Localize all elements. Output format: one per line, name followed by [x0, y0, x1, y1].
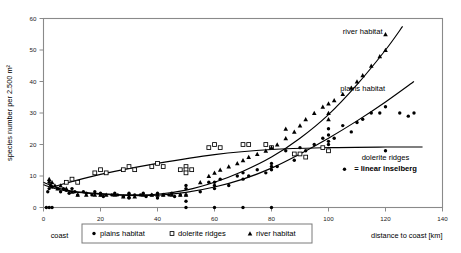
data-point-dolerite-ridges: [298, 152, 302, 156]
y-axis-tick-label: 0: [33, 204, 37, 211]
data-point-plains-habitat: [241, 206, 244, 209]
species-distance-scatter-plot: 0204060801001201400102030405060species n…: [0, 0, 461, 253]
data-point-river-habitat: [332, 98, 337, 102]
data-point-river-habitat: [321, 104, 326, 108]
legend-marker-dolerite-icon: [170, 232, 174, 236]
data-point-plains-habitat: [313, 143, 316, 146]
x-axis-tick-label: 20: [97, 215, 104, 222]
annotation-linear-inselberg: = linear inselberg: [354, 164, 417, 173]
data-point-plains-habitat: [213, 184, 216, 187]
data-point-plains-habitat: [298, 146, 301, 149]
data-point-plains-habitat: [256, 168, 259, 171]
data-point-river-habitat: [235, 161, 240, 165]
data-point-river-habitat: [326, 101, 331, 105]
data-point-plains-habitat: [184, 200, 187, 203]
data-point-plains-habitat: [384, 105, 387, 108]
data-point-plains-habitat: [213, 187, 216, 190]
data-point-river-habitat: [292, 130, 297, 134]
data-point-plains-habitat: [361, 118, 364, 121]
data-point-plains-habitat: [341, 124, 344, 127]
data-point-plains-habitat: [241, 177, 244, 180]
data-point-river-habitat: [241, 158, 246, 162]
data-point-plains-habitat: [327, 143, 330, 146]
data-point-river-habitat: [207, 174, 212, 178]
data-point-plains-habitat: [370, 111, 373, 114]
data-point-river-habitat: [326, 117, 331, 121]
data-point-dolerite-ridges: [150, 165, 154, 169]
data-point-plains-habitat: [236, 174, 239, 177]
data-point-plains-habitat: [378, 111, 381, 114]
data-point-plains-habitat: [46, 190, 49, 193]
data-point-plains-habitat: [384, 149, 387, 152]
data-point-dolerite-ridges: [76, 180, 80, 184]
data-point-plains-habitat: [213, 181, 216, 184]
data-point-dolerite-ridges: [218, 146, 222, 150]
data-point-dolerite-ridges: [327, 149, 331, 153]
data-point-dolerite-ridges: [156, 162, 160, 166]
data-point-river-habitat: [198, 180, 203, 184]
x-axis-tick-label: 40: [154, 215, 161, 222]
data-point-dolerite-ridges: [64, 180, 68, 184]
data-point-plains-habitat: [412, 111, 415, 114]
data-point-dolerite-ridges: [304, 155, 308, 159]
data-point-plains-habitat: [333, 137, 336, 140]
data-point-dolerite-ridges: [247, 143, 251, 147]
x-axis-title: distance to coast [km]: [371, 231, 442, 240]
data-point-river-habitat: [275, 142, 280, 146]
legend-label-plains-habitat: plains habitat: [100, 229, 146, 238]
data-point-plains-habitat: [270, 165, 273, 168]
data-point-plains-habitat: [276, 165, 279, 168]
data-point-plains-habitat: [241, 171, 244, 174]
data-point-plains-habitat: [219, 177, 222, 180]
data-point-plains-habitat: [207, 181, 210, 184]
data-point-plains-habitat: [199, 190, 202, 193]
data-point-dolerite-ridges: [161, 165, 165, 169]
x-axis-tick-label: 0: [42, 215, 46, 222]
y-axis-tick-label: 30: [30, 109, 37, 116]
data-point-dolerite-ridges: [127, 165, 131, 169]
data-point-plains-habitat: [48, 187, 51, 190]
data-point-plains-habitat: [270, 206, 273, 209]
trendline-plains-habitat: [44, 82, 415, 196]
data-point-plains-habitat: [327, 133, 330, 136]
x-axis-tick-label: 80: [268, 215, 275, 222]
data-point-river-habitat: [218, 167, 223, 171]
legend-marker-plains-icon: [92, 232, 95, 235]
y-axis-tick-label: 50: [30, 46, 37, 53]
data-point-dolerite-ridges: [93, 171, 97, 175]
y-axis-tick-label: 60: [30, 15, 37, 22]
data-point-plains-habitat: [227, 184, 230, 187]
data-point-plains-habitat: [407, 114, 410, 117]
data-point-plains-habitat: [321, 137, 324, 140]
data-point-plains-habitat: [184, 184, 187, 187]
x-axis-tick-label: 60: [211, 215, 218, 222]
data-point-dolerite-ridges: [241, 143, 245, 147]
origin-coast-label: coast: [51, 231, 69, 240]
trendline-river-habitat: [44, 26, 403, 195]
data-point-dolerite-ridges: [178, 168, 182, 172]
data-point-plains-habitat: [50, 206, 53, 209]
data-point-dolerite-ridges: [184, 171, 188, 175]
data-point-plains-habitat: [82, 190, 85, 193]
y-axis-tick-label: 40: [30, 78, 37, 85]
data-point-river-habitat: [360, 73, 365, 77]
data-point-plains-habitat: [398, 111, 401, 114]
data-point-river-habitat: [255, 152, 260, 156]
annotation-dolerite-ridges: dolerite ridges: [362, 153, 410, 162]
data-point-plains-habitat: [270, 168, 273, 171]
data-point-dolerite-ridges: [292, 152, 296, 156]
y-axis-title: species number per 2.500 m²: [5, 64, 14, 161]
data-point-dolerite-ridges: [121, 168, 125, 172]
legend-label-dolerite-ridges: dolerite ridges: [178, 229, 226, 238]
data-point-dolerite-ridges: [213, 143, 217, 147]
data-point-dolerite-ridges: [321, 146, 325, 150]
data-point-plains-habitat: [213, 206, 216, 209]
data-point-river-habitat: [298, 123, 303, 127]
chart-figure: 0204060801001201400102030405060species n…: [0, 0, 461, 253]
data-point-plains-habitat: [184, 187, 187, 190]
data-point-river-habitat: [303, 117, 308, 121]
data-point-plains-habitat: [184, 206, 187, 209]
annotation-plains-habitat: plains habitat: [340, 84, 386, 93]
y-axis-tick-label: 20: [30, 141, 37, 148]
y-axis-tick-label: 10: [30, 172, 37, 179]
